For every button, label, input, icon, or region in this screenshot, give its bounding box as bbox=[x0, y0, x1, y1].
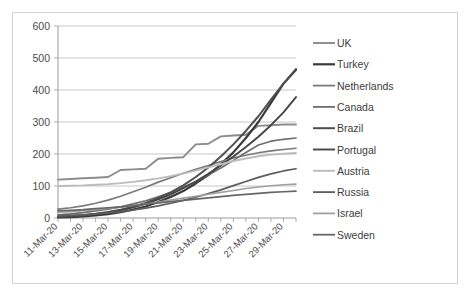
y-tick-label: 200 bbox=[32, 148, 50, 160]
legend-label-brazil[interactable]: Brazil bbox=[337, 122, 363, 134]
y-tick-label: 500 bbox=[32, 52, 50, 64]
legend-label-russia[interactable]: Russia bbox=[337, 186, 369, 198]
y-tick-label: 300 bbox=[32, 116, 50, 128]
series-line-turkey bbox=[58, 69, 296, 217]
y-tick-label: 400 bbox=[32, 84, 50, 96]
legend-label-sweden[interactable]: Sweden bbox=[337, 229, 375, 241]
series-lines bbox=[58, 69, 296, 217]
legend-label-turkey[interactable]: Turkey bbox=[337, 58, 369, 70]
x-axis-tick-labels: 11-Mar-2013-Mar-2015-Mar-2017-Mar-2019-M… bbox=[21, 221, 285, 260]
chart-plot-wrapper: 0100200300400500600 11-Mar-2013-Mar-2015… bbox=[13, 13, 459, 285]
legend-label-canada[interactable]: Canada bbox=[337, 101, 374, 113]
chart-legend: UKTurkeyNetherlandsCanadaBrazilPortugalA… bbox=[313, 37, 394, 241]
legend-label-austria[interactable]: Austria bbox=[337, 165, 370, 177]
chart-container: 0100200300400500600 11-Mar-2013-Mar-2015… bbox=[12, 12, 458, 284]
y-axis-tick-labels: 0100200300400500600 bbox=[32, 20, 50, 224]
legend-label-netherlands[interactable]: Netherlands bbox=[337, 80, 394, 92]
line-chart: 0100200300400500600 11-Mar-2013-Mar-2015… bbox=[13, 13, 459, 285]
y-tick-label: 600 bbox=[32, 20, 50, 32]
legend-label-portugal[interactable]: Portugal bbox=[337, 144, 376, 156]
y-tick-label: 100 bbox=[32, 180, 50, 192]
y-axis-ticks bbox=[54, 26, 58, 218]
legend-label-israel[interactable]: Israel bbox=[337, 207, 363, 219]
legend-label-uk[interactable]: UK bbox=[337, 37, 352, 49]
gridlines bbox=[58, 26, 296, 186]
